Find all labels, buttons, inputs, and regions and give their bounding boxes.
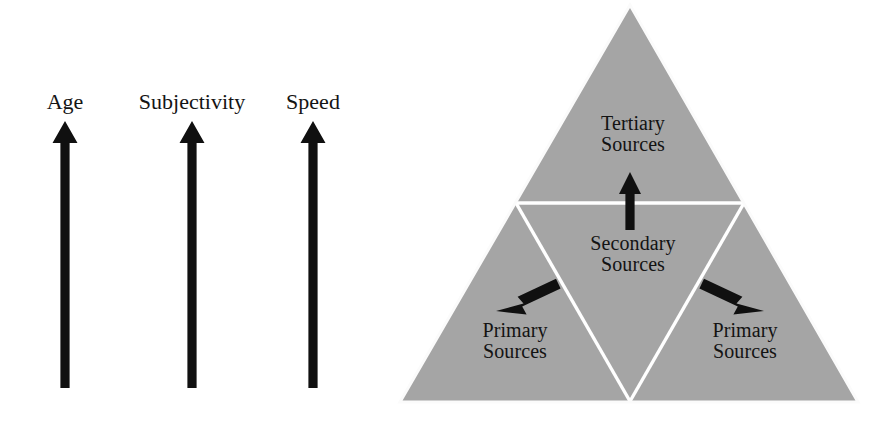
label-secondary-line2: Sources [370, 254, 896, 275]
label-tertiary-line1: Tertiary [601, 112, 665, 134]
label-secondary-sources: Secondary Sources [370, 233, 896, 275]
label-secondary-line1: Secondary [590, 232, 675, 254]
up-arrow-icon [52, 120, 78, 390]
axis-item-speed: Speed [253, 0, 373, 424]
label-primary-sources-left: Primary Sources [430, 320, 600, 362]
axis-item-subjectivity: Subjectivity [132, 0, 252, 424]
figure-canvas: Age Subjectivity Speed [0, 0, 896, 424]
axis-label-speed: Speed [286, 89, 340, 115]
label-primary-left-line1: Primary [482, 319, 547, 341]
pyramid-group: Tertiary Sources Secondary Sources Prima… [370, 0, 896, 424]
label-primary-right-line2: Sources [660, 341, 830, 362]
label-primary-left-line2: Sources [430, 341, 600, 362]
axis-label-age: Age [47, 89, 84, 115]
label-tertiary-line2: Sources [370, 134, 896, 155]
axis-label-subjectivity: Subjectivity [139, 89, 245, 115]
label-tertiary-sources: Tertiary Sources [370, 113, 896, 155]
label-primary-right-line1: Primary [712, 319, 777, 341]
up-arrow-icon [300, 120, 326, 390]
axes-group: Age Subjectivity Speed [0, 0, 370, 424]
label-primary-sources-right: Primary Sources [660, 320, 830, 362]
up-arrow-icon [179, 120, 205, 390]
axis-item-age: Age [5, 0, 125, 424]
